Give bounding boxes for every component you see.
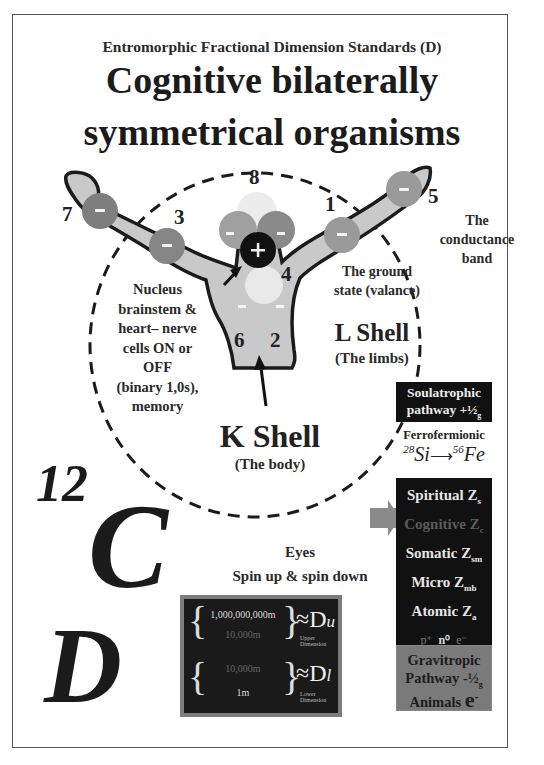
lower-dimension-caption: Lower Dimension — [300, 691, 338, 703]
lower-range-top: 10,000m — [202, 663, 284, 674]
nucleus-note-label: Nucleus brainstem & heart– nerve cells O… — [110, 280, 205, 417]
right-arrow-icon: ⟶ — [430, 447, 453, 464]
z-level-cognitive: Cognitive Zc — [396, 513, 492, 542]
electron-number-4: 4 — [281, 262, 292, 287]
carbon-symbol: C — [88, 487, 168, 607]
electron-number-5: 5 — [428, 184, 439, 209]
plus-sign-v — [257, 243, 260, 257]
k-shell-label: K Shell — [200, 420, 340, 452]
z-levels-box: Spiritual Zs Cognitive Zc Somatic Zsm Mi… — [396, 478, 492, 645]
l-shell-sublabel: (The limbs) — [312, 350, 432, 367]
z-level-somatic: Somatic Zsm — [396, 542, 492, 571]
electron-number-6: 6 — [234, 328, 245, 353]
electron-number-2: 2 — [270, 328, 281, 353]
upper-range-bottom: 10,000m — [202, 629, 284, 640]
upper-range-top: 1,000,000,000m — [202, 609, 284, 620]
k-shell-pointer-arrow — [261, 368, 266, 406]
dimension-symbol: D — [44, 612, 122, 720]
eyes-label: Eyes Spin up & spin down — [220, 540, 380, 588]
upper-dimension-caption: Upper Dimension — [300, 635, 338, 647]
electron-number-1: 1 — [325, 192, 336, 217]
lower-range-bottom: 1m — [202, 687, 284, 698]
soulatrophic-pathway-box: Soulatrophic pathway +½g — [396, 382, 492, 422]
electron-4 — [245, 266, 283, 304]
z-level-spiritual: Spiritual Zs — [396, 484, 492, 513]
electron-number-3: 3 — [174, 205, 185, 230]
z-level-micro: Micro Zmb — [396, 571, 492, 600]
carbon-mass-number: 12 — [36, 458, 88, 510]
upper-dimension-symbol: ≈Du — [296, 607, 335, 631]
dimension-range-box: { 1,000,000,000m 10,000m } ≈Du Upper Dim… — [180, 595, 342, 717]
ferrofermionic-equation: 28Si⟶56Fe — [396, 443, 492, 466]
ground-state-label: The ground state (valance) — [322, 263, 432, 301]
electron-number-7: 7 — [62, 202, 73, 227]
z-level-atomic: Atomic Za — [396, 600, 492, 629]
k-shell-sublabel: (The body) — [200, 456, 340, 473]
l-shell-label: L Shell — [312, 320, 432, 345]
conductance-band-label: The conductance band — [437, 212, 517, 269]
electron-number-8: 8 — [249, 165, 260, 190]
ferrofermionic-label: Ferrofermionic — [396, 428, 492, 443]
lower-dimension-symbol: ≈Dl — [296, 661, 331, 685]
gravitropic-pathway-box: Gravitropic Pathway -½g Animals e- — [396, 645, 492, 711]
